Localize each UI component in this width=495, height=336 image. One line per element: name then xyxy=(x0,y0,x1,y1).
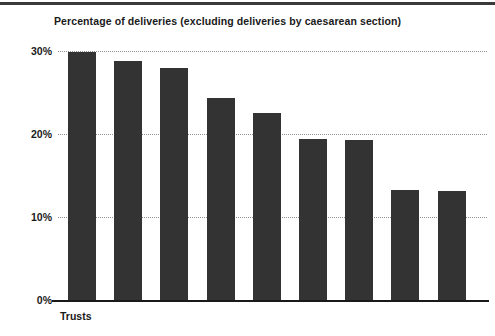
chart-title: Percentage of deliveries (excluding deli… xyxy=(54,15,401,27)
x-axis-line xyxy=(52,300,489,302)
y-tick-label-0: 0% xyxy=(6,294,52,306)
x-axis-title: Trusts xyxy=(60,310,92,322)
bar xyxy=(299,139,327,300)
plot-area xyxy=(58,51,487,300)
bar-chart: Percentage of deliveries (excluding deli… xyxy=(0,0,495,336)
bar xyxy=(345,140,373,300)
bar xyxy=(438,191,466,300)
bar xyxy=(68,52,96,300)
y-tick-label-30: 30% xyxy=(6,45,52,57)
y-axis: 30% 20% 10% 0% xyxy=(0,0,52,336)
y-tick-label-10: 10% xyxy=(6,211,52,223)
y-tick-label-20: 20% xyxy=(6,128,52,140)
bar xyxy=(253,113,281,300)
bar xyxy=(207,98,235,300)
bar xyxy=(391,190,419,300)
top-divider xyxy=(0,2,495,5)
bar xyxy=(160,68,188,300)
bars-container xyxy=(58,51,487,300)
bar xyxy=(114,61,142,300)
